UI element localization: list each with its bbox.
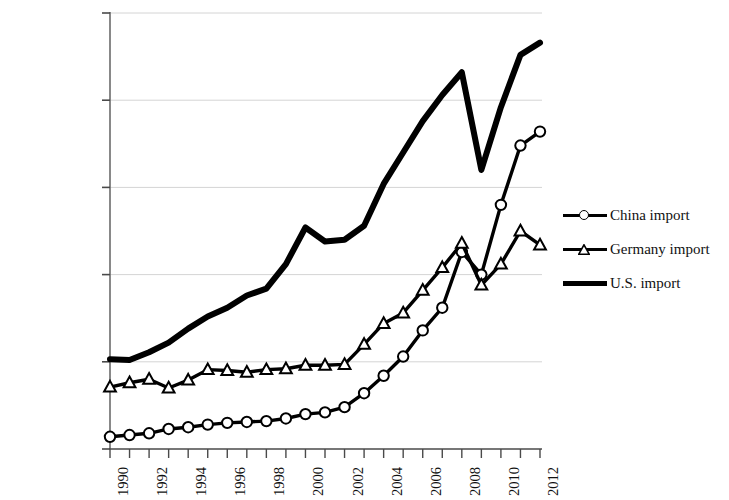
x-axis-tick-label: 2004 xyxy=(390,467,405,496)
legend-key-triangle-marker-icon xyxy=(563,240,607,258)
import-trends-line-chart: $-$5,00,000.00$10,00,000.00$15,00,000.00… xyxy=(0,0,729,500)
chart-legend: China import Germany import U.S. import xyxy=(563,198,729,300)
legend-label-germany-import: Germany import xyxy=(610,242,710,257)
x-axis-tick-label: 1992 xyxy=(155,467,170,496)
x-axis-tick-label: 2006 xyxy=(429,467,444,496)
x-axis-tick-label: 2012 xyxy=(546,467,561,496)
legend-label-us-import: U.S. import xyxy=(610,276,680,291)
legend-item-us-import[interactable]: U.S. import xyxy=(563,266,729,300)
x-axis-tick-label: 1994 xyxy=(194,467,209,496)
x-axis-tick-label: 2000 xyxy=(311,467,326,496)
x-axis-tick-label: 1996 xyxy=(233,467,248,496)
legend-key-circle-marker-icon xyxy=(563,206,607,224)
legend-item-germany-import[interactable]: Germany import xyxy=(563,232,729,266)
x-axis-tick-label: 2002 xyxy=(351,467,366,496)
legend-item-china-import[interactable]: China import xyxy=(563,198,729,232)
legend-label-china-import: China import xyxy=(610,208,690,223)
x-axis-tick-label: 1998 xyxy=(272,467,287,496)
x-axis-tick-label: 2008 xyxy=(468,467,483,496)
legend-key-thick-line-icon xyxy=(563,274,607,292)
x-axis-tick-label: 2010 xyxy=(507,467,522,496)
x-axis-tick-label: 1990 xyxy=(116,467,131,496)
